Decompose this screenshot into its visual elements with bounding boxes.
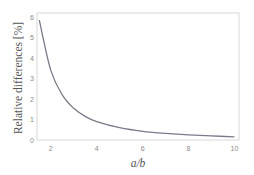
y-tick-label: 3 (30, 75, 34, 82)
y-tick-label: 4 (30, 55, 34, 62)
y-tick-label: 1 (30, 116, 34, 123)
x-tick-label: 6 (141, 145, 145, 152)
y-tick-label: 2 (30, 96, 34, 103)
x-axis-label: a/b (131, 157, 146, 169)
y-axis-ticks: 0123456 (30, 14, 34, 144)
y-axis-label: Relative differences [%] (12, 22, 24, 134)
plot-frame (37, 13, 239, 140)
x-tick-label: 4 (95, 145, 99, 152)
y-tick-label: 0 (30, 137, 34, 144)
x-tick-label: 10 (231, 145, 239, 152)
y-tick-label: 5 (30, 34, 34, 41)
chart: 0123456 246810 Relative differences [%] … (0, 0, 254, 175)
data-line (39, 20, 234, 137)
x-tick-label: 2 (49, 145, 53, 152)
y-tick-label: 6 (30, 14, 34, 21)
x-tick-label: 8 (187, 145, 191, 152)
x-axis-ticks: 246810 (49, 145, 239, 152)
